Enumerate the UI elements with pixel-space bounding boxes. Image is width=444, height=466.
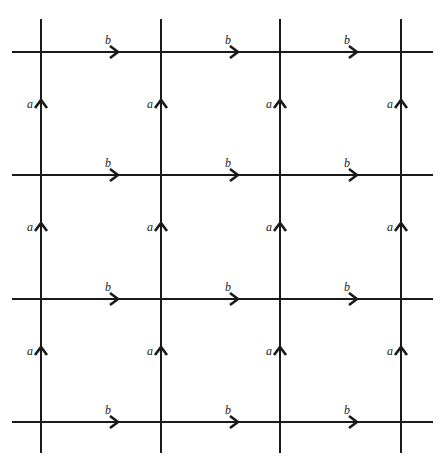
a-edge-arrow: a xyxy=(27,97,47,111)
b-edge-arrow: b xyxy=(105,156,118,181)
edge-label-a: a xyxy=(27,220,33,234)
edge-label-b: b xyxy=(225,280,231,294)
a-edge-arrow: a xyxy=(387,220,407,234)
edge-label-b: b xyxy=(225,33,231,47)
b-edge-arrow: b xyxy=(225,403,238,428)
a-edge-arrow: a xyxy=(266,220,286,234)
edge-label-b: b xyxy=(105,280,111,294)
edge-label-b: b xyxy=(105,33,111,47)
edge-label-a: a xyxy=(27,97,33,111)
b-edge-arrow: b xyxy=(105,280,118,305)
horizontal-edges xyxy=(12,52,433,422)
edge-label-a: a xyxy=(387,97,393,111)
edge-label-b: b xyxy=(105,403,111,417)
b-edge-arrow: b xyxy=(105,403,118,428)
edge-label-a: a xyxy=(266,97,272,111)
edge-label-a: a xyxy=(27,344,33,358)
edge-label-b: b xyxy=(344,280,350,294)
a-edge-arrow: a xyxy=(27,344,47,358)
edge-label-a: a xyxy=(387,220,393,234)
a-edge-arrow: a xyxy=(147,220,167,234)
vertical-arrows: aaaaaaaaaaaa xyxy=(27,97,407,358)
a-edge-arrow: a xyxy=(266,97,286,111)
edge-label-a: a xyxy=(147,344,153,358)
edge-label-a: a xyxy=(147,97,153,111)
edge-label-b: b xyxy=(344,403,350,417)
a-edge-arrow: a xyxy=(387,97,407,111)
a-edge-arrow: a xyxy=(147,97,167,111)
edge-label-a: a xyxy=(266,220,272,234)
a-edge-arrow: a xyxy=(27,220,47,234)
vertical-edges xyxy=(41,19,401,453)
b-edge-arrow: b xyxy=(225,280,238,305)
b-edge-arrow: b xyxy=(344,280,357,305)
b-edge-arrow: b xyxy=(344,33,357,58)
edge-label-b: b xyxy=(225,156,231,170)
edge-label-b: b xyxy=(105,156,111,170)
b-edge-arrow: b xyxy=(105,33,118,58)
lattice-diagram: bbbbbbbbbbbb aaaaaaaaaaaa xyxy=(0,0,444,466)
a-edge-arrow: a xyxy=(266,344,286,358)
horizontal-arrows: bbbbbbbbbbbb xyxy=(105,33,357,428)
b-edge-arrow: b xyxy=(344,156,357,181)
a-edge-arrow: a xyxy=(147,344,167,358)
b-edge-arrow: b xyxy=(225,33,238,58)
edge-label-a: a xyxy=(266,344,272,358)
edge-label-b: b xyxy=(344,156,350,170)
b-edge-arrow: b xyxy=(344,403,357,428)
a-edge-arrow: a xyxy=(387,344,407,358)
edge-label-b: b xyxy=(344,33,350,47)
edge-label-a: a xyxy=(387,344,393,358)
b-edge-arrow: b xyxy=(225,156,238,181)
edge-label-a: a xyxy=(147,220,153,234)
edge-label-b: b xyxy=(225,403,231,417)
